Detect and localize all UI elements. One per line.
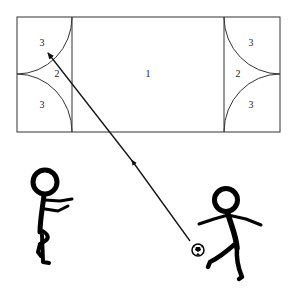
- soccer-ball: [192, 244, 204, 256]
- watching-player: [33, 170, 72, 263]
- watching-player-head: [33, 170, 57, 194]
- left-zone-2-label: 2: [55, 69, 60, 79]
- watching-player-arm-upper: [45, 199, 72, 201]
- right-top-zone-3-label: 3: [249, 38, 254, 48]
- watching-player-arm-lower: [45, 206, 68, 211]
- left-top-zone-3-label: 3: [40, 38, 45, 48]
- left-bottom-arc: [17, 74, 72, 132]
- kicking-player-head: [215, 189, 238, 212]
- left-top-arc: [17, 17, 72, 74]
- kicking-player-leg-stand: [237, 248, 242, 279]
- right-zone-2-label: 2: [236, 69, 241, 79]
- right-bottom-zone-3-label: 3: [249, 100, 254, 110]
- watching-player-body: [40, 195, 44, 232]
- kick-trajectory-arrow: [48, 53, 190, 241]
- kicking-player: [199, 189, 261, 280]
- zone-1-label: 1: [146, 69, 151, 79]
- kicking-player-leg-kick: [208, 244, 235, 267]
- left-bottom-zone-3-label: 3: [40, 100, 45, 110]
